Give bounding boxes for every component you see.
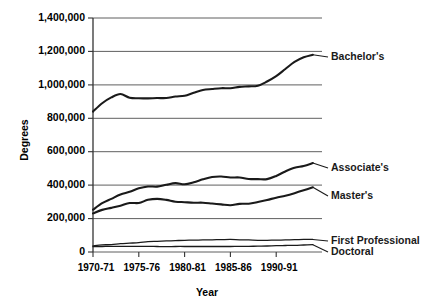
leader-line-doctoral (313, 245, 328, 252)
y-axis-tick-labels: 1,400,000 1,200,000 1,000,000 800,000 60… (38, 11, 85, 257)
y-tick-label-400000: 400,000 (47, 178, 85, 190)
series-leader-lines (313, 55, 328, 252)
series-line-master-s (93, 187, 313, 213)
leader-line-associate-s (313, 163, 328, 168)
line-chart: 1,400,000 1,200,000 1,000,000 800,000 60… (0, 0, 434, 303)
x-tick-label-1990-91: 1990-91 (261, 262, 298, 273)
series-label-masters: Master's (331, 189, 373, 201)
y-tick-label-1000000: 1,000,000 (38, 78, 85, 90)
x-axis-ticks (93, 252, 276, 257)
series-label-bachelors: Bachelor's (331, 50, 384, 62)
series-labels: Bachelor's Associate's Master's First Pr… (331, 50, 420, 257)
series-label-doctoral: Doctoral (331, 245, 374, 257)
y-tick-label-1400000: 1,400,000 (38, 11, 85, 23)
series-lines (93, 55, 313, 247)
y-axis-ticks (88, 18, 93, 252)
gridlines (93, 18, 322, 252)
series-line-bachelor-s (93, 55, 313, 112)
series-line-doctoral (93, 245, 313, 247)
leader-line-master-s (313, 187, 328, 196)
leader-line-bachelor-s (313, 55, 328, 57)
leader-line-first-professional (313, 239, 328, 241)
y-tick-label-800000: 800,000 (47, 111, 85, 123)
y-tick-label-200000: 200,000 (47, 211, 85, 223)
y-tick-label-0: 0 (79, 245, 85, 257)
y-tick-label-600000: 600,000 (47, 144, 85, 156)
x-tick-label-1970-71: 1970-71 (78, 262, 115, 273)
x-tick-label-1980-81: 1980-81 (169, 262, 206, 273)
x-axis-tick-labels: 1970-71 1975-76 1980-81 1985-86 1990-91 (78, 262, 298, 273)
chart-container: 1,400,000 1,200,000 1,000,000 800,000 60… (0, 0, 434, 303)
series-line-first-professional (93, 239, 313, 245)
series-label-associates: Associate's (331, 161, 389, 173)
y-axis-title: Degrees (18, 119, 30, 161)
x-tick-label-1985-86: 1985-86 (215, 262, 252, 273)
x-tick-label-1975-76: 1975-76 (123, 262, 160, 273)
y-tick-label-1200000: 1,200,000 (38, 44, 85, 56)
x-axis-title: Year (196, 286, 218, 298)
